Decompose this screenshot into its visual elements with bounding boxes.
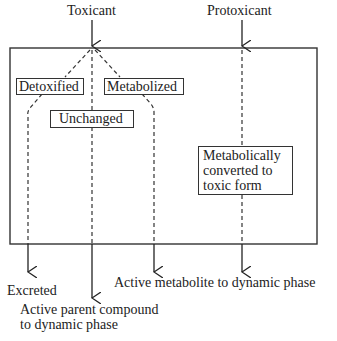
active-parent-line-1: Active parent compound (20, 302, 158, 317)
active-metabolite-label: Active metabolite to dynamic phase (114, 275, 315, 290)
unchanged-box: Unchanged (50, 110, 134, 128)
toxicant-label: Toxicant (67, 3, 116, 18)
protoxicant-label: Protoxicant (207, 3, 272, 18)
active-parent-label: Active parent compound to dynamic phase (20, 302, 158, 332)
converted-box: Metabolically converted to toxic form (198, 146, 293, 195)
converted-line-2: converted to (203, 163, 288, 178)
metabolized-box: Metabolized (104, 78, 184, 95)
active-parent-line-2: to dynamic phase (20, 317, 158, 332)
converted-line-3: toxic form (203, 178, 288, 193)
excreted-label: Excreted (7, 283, 57, 298)
converted-line-1: Metabolically (203, 148, 288, 163)
detoxified-box: Detoxified (16, 78, 84, 95)
